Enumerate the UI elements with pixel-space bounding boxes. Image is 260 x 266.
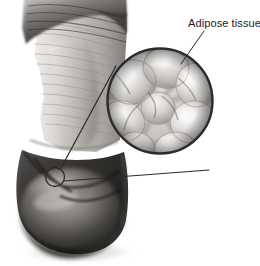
lower-body bbox=[16, 150, 128, 258]
adipose-tissue-label-text: Adipose tissue bbox=[188, 17, 260, 29]
illustration-canvas: Adipose tissue bbox=[0, 0, 260, 266]
adipose-tissue-figure: Adipose tissue bbox=[0, 0, 260, 266]
